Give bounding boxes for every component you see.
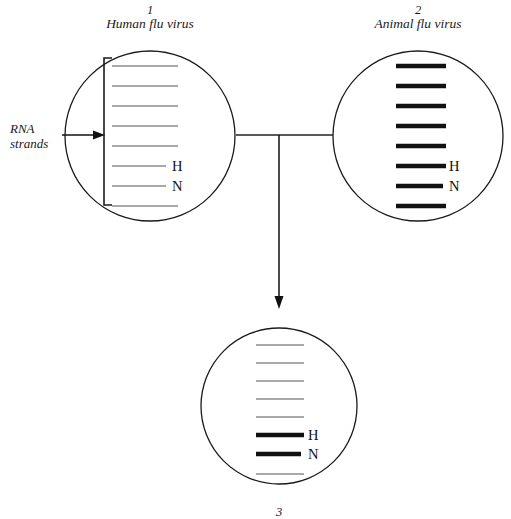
connector-group — [236, 135, 333, 309]
virus-1-group: H N — [65, 51, 235, 221]
reassortment-arrowhead-icon — [275, 296, 284, 309]
rna-strands-label: RNA strands — [10, 122, 48, 152]
virus-1-name-label: Human flu virus — [75, 17, 225, 31]
virus-3-strands — [256, 345, 304, 474]
virus-1-strands — [112, 66, 178, 206]
rna-strands-label-line1: RNA — [10, 122, 48, 137]
virus-3-circle — [201, 328, 357, 484]
flu-reassortment-diagram: H N H N — [0, 0, 511, 519]
rna-strands-bracket — [104, 58, 112, 205]
diagram-canvas: H N H N — [0, 0, 511, 519]
rna-strands-label-line2: strands — [10, 137, 48, 152]
virus-3-h-label: H — [308, 427, 319, 443]
virus-1-n-label: N — [172, 178, 183, 194]
virus-3-number-label: 3 — [229, 506, 329, 519]
virus-3-group: H N — [201, 328, 357, 484]
virus-2-group: H N — [333, 51, 503, 221]
virus-2-n-label: N — [449, 178, 460, 194]
virus-2-strands — [396, 66, 446, 206]
virus-2-name-label: Animal flu virus — [343, 17, 493, 31]
rna-strands-arrow-group — [62, 131, 105, 140]
virus-2-circle — [333, 51, 503, 221]
virus-1-circle — [65, 51, 235, 221]
virus-3-n-label: N — [308, 446, 319, 462]
virus-2-h-label: H — [449, 158, 460, 174]
virus-1-h-label: H — [172, 158, 183, 174]
